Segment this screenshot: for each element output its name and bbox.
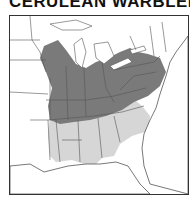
range-map (9, 15, 189, 195)
lake-michigan (74, 38, 86, 68)
map-title: CERULEAN WARBLER (9, 0, 190, 11)
gulf-of-mexico (10, 162, 150, 194)
range-map-svg (10, 16, 188, 194)
lake-superior (50, 20, 92, 30)
